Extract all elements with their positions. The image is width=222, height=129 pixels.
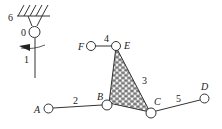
label-6: 6 <box>8 12 13 23</box>
arrowhead-icon <box>19 44 30 51</box>
label-3: 3 <box>142 75 147 86</box>
diagram-canvas: 6 0 1 3 4 F E 2 A B 5 C D <box>0 0 222 129</box>
label-B: B <box>97 91 103 102</box>
label-0: 0 <box>21 27 26 38</box>
label-4: 4 <box>104 33 109 44</box>
joint-B <box>102 100 112 110</box>
joint-F <box>87 42 96 51</box>
joint-C <box>146 108 156 118</box>
label-A: A <box>33 104 41 115</box>
label-1: 1 <box>24 54 29 65</box>
joint-E <box>112 42 121 51</box>
joint-A <box>44 104 53 113</box>
label-D: D <box>200 81 209 92</box>
label-5: 5 <box>176 93 181 104</box>
label-F: F <box>77 41 85 52</box>
joint-D <box>200 94 209 103</box>
ground-symbol <box>17 5 50 26</box>
label-2: 2 <box>73 95 78 106</box>
label-E: E <box>123 40 130 51</box>
mechanism-diagram: 6 0 1 3 4 F E 2 A B 5 C D <box>0 0 222 129</box>
pivot-0 <box>29 27 40 38</box>
label-C: C <box>154 96 161 107</box>
